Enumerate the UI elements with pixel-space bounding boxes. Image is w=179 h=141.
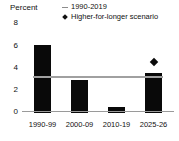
bar-2000-09 [71, 80, 88, 113]
bar-2010-19 [108, 107, 125, 113]
bar-1990-99 [34, 45, 51, 113]
y-tick-2: 2 [14, 84, 18, 93]
bar-2025-26 [145, 73, 162, 113]
y-axis-tick-labels: 8 6 4 2 0 [0, 0, 22, 141]
x-tick-1990-99: 1990-99 [29, 120, 57, 129]
legend-line-marker-icon [62, 2, 70, 12]
scenario-diamond-marker-icon [149, 58, 157, 66]
y-tick-8: 8 [14, 18, 18, 27]
chart-container: Percent 1990-2019 Higher-for-longer scen… [0, 0, 179, 141]
x-axis-tick-labels: 1990-99 2000-09 2010-19 2025-26 [22, 120, 174, 134]
legend-item-baseline-label: 1990-2019 [71, 2, 107, 12]
y-tick-6: 6 [14, 40, 18, 49]
x-tick-2000-09: 2000-09 [66, 120, 94, 129]
baseline-average-line [33, 76, 163, 78]
x-tick-2010-19: 2010-19 [103, 120, 131, 129]
y-tick-0: 0 [14, 107, 18, 116]
y-tick-4: 4 [14, 62, 18, 71]
legend-item-baseline: 1990-2019 [62, 2, 158, 12]
x-tick-2025-26: 2025-26 [140, 120, 168, 129]
x-axis-line [22, 111, 174, 112]
plot-area [22, 18, 174, 113]
